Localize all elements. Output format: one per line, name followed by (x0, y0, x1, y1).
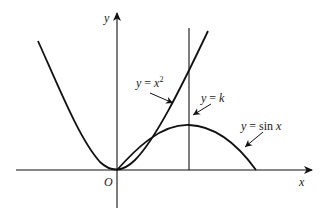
sine-label-arrow (245, 132, 263, 147)
x-axis-label: x (298, 175, 305, 189)
sine-label: y = sin x (240, 119, 282, 133)
sine-curve (117, 125, 256, 170)
vertical-line-label: y = k (200, 91, 225, 105)
parabola-label: y = x2 (135, 75, 163, 90)
origin-label: O (104, 175, 113, 189)
y-axis-label: y (103, 11, 110, 25)
parabola-curve (38, 31, 208, 170)
parabola-label-arrow (150, 93, 173, 103)
function-graph-diagram: y x O y = x2 y = k y = sin x (0, 0, 326, 215)
vertical-line-label-arrow (193, 104, 211, 115)
